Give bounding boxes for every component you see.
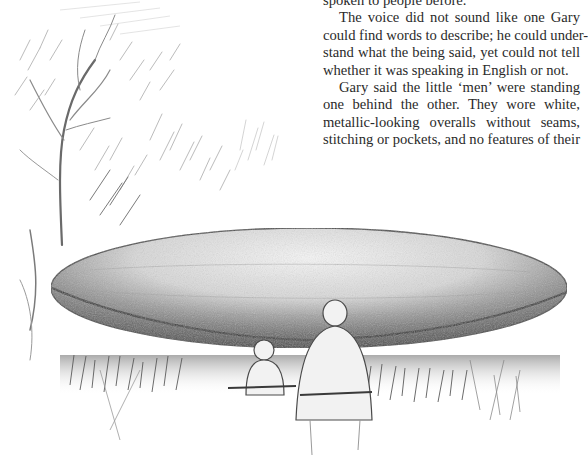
text-line: spoken to people before. xyxy=(323,0,580,9)
text-line: stand what the being said, yet could not… xyxy=(323,44,580,61)
paragraph-1: spoken to people before. xyxy=(323,0,580,9)
text-line: whether it was speaking in English or no… xyxy=(323,62,580,79)
text-line: Gary said the little ‘men’ were standing xyxy=(323,79,580,96)
text-line: one behind the other. They wore white, xyxy=(323,96,580,113)
paragraph-2: The voice did not sound like one Gary co… xyxy=(323,9,580,79)
body-text: spoken to people before. The voice did n… xyxy=(323,0,580,149)
disc-craft xyxy=(51,228,567,348)
text-line: metallic-looking overalls without seams, xyxy=(323,114,580,131)
text-line: stitching or pockets, and no features of… xyxy=(323,131,580,148)
text-line: could find words to describe; he could u… xyxy=(323,27,580,44)
book-page: spoken to people before. The voice did n… xyxy=(0,0,588,463)
text-line: The voice did not sound like one Gary xyxy=(323,9,580,26)
sky-hatching xyxy=(60,2,180,34)
paragraph-3: Gary said the little ‘men’ were standing… xyxy=(323,79,580,149)
